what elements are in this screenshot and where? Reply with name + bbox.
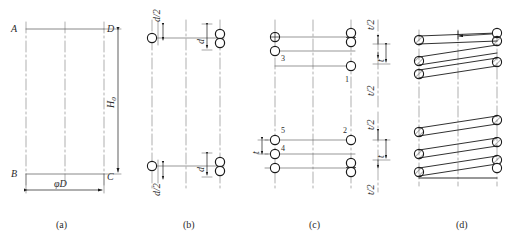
panel-c-circle-bottom-left: [270, 163, 279, 172]
panel-c-number-5: 5: [281, 126, 285, 135]
panel-b-circle-left-bottom: [147, 161, 156, 170]
panel-c-circle-top-left: [270, 32, 279, 41]
panel-c-centerlines: [275, 20, 378, 192]
panel-c-circle-1: [346, 61, 355, 70]
panel-b-rails: [152, 38, 224, 166]
panel-c-circle-right-top-pair: [346, 28, 355, 46]
dimension-c-t-upper-label: t: [375, 59, 386, 62]
dimension-h0-label: H0: [105, 97, 118, 109]
panel-d-centerlines: [419, 30, 497, 186]
panel-d-section-lower-left-2: [414, 149, 423, 158]
dimension-b-d-top-label: d: [195, 38, 206, 44]
dimension-b-d2-bottom-label: d/2: [151, 183, 162, 196]
panel-d-section-upper-left-3: [414, 69, 423, 78]
spring-construction-figure: A D B C H0 φD (a): [0, 0, 520, 242]
panel-d-section-lower-left-1: [414, 127, 423, 136]
dimension-c-t2-upper-top-label: t/2: [365, 19, 376, 30]
panel-b-centerlines: [152, 20, 220, 188]
panel-d-upper-arrow: [458, 31, 492, 39]
corner-label-b: B: [11, 168, 17, 179]
dimension-b-d-bottom-label: d: [195, 166, 206, 172]
dimension-b-d-top: [202, 24, 212, 50]
panel-a: A D B C H0 φD (a): [10, 22, 121, 231]
dimension-b-d2-bottom: [158, 160, 163, 183]
corner-label-c: C: [107, 171, 114, 182]
dimension-c-t-lower-label: t: [375, 155, 386, 158]
panel-d-section-upper-right-2: [492, 57, 501, 66]
panel-c-number-1: 1: [345, 75, 349, 84]
panel-b-circle-right-bottom: [215, 157, 224, 175]
panel-d-section-lower-right-3: [492, 155, 501, 172]
panel-c-circle-2: [346, 135, 355, 144]
panel-c-rails: [265, 37, 355, 168]
corner-label-d: D: [106, 23, 115, 34]
dimension-b-d2-top: [158, 22, 163, 45]
panel-b: d/2 d d/2 d (b): [147, 9, 224, 231]
panel-c-number-4: 4: [281, 144, 285, 153]
panel-b-caption: (b): [183, 219, 195, 231]
dimension-c-t2-lower-bottom-label: t/2: [365, 184, 376, 195]
panel-a-caption: (a): [56, 219, 67, 231]
corner-label-a: A: [10, 23, 18, 34]
dimension-phid-label: φD: [54, 178, 68, 189]
panel-d-section-upper-left-1: [414, 35, 423, 44]
dimension-c-t2-upper-bottom-label: t/2: [365, 85, 376, 96]
panel-c-circle-right-bottom-pair: [346, 158, 355, 176]
panel-c: 3 5 4 1 2: [250, 19, 390, 231]
panel-d-section-upper-right-1: [492, 28, 501, 45]
panel-d-section-upper-left-2: [414, 56, 423, 65]
panel-c-circle-5: [270, 135, 279, 144]
panel-c-number-3: 3: [281, 54, 285, 63]
panel-d-section-lower-left-3: [414, 167, 423, 176]
panel-a-centerlines: [26, 22, 104, 186]
panel-d-section-lower-right-2: [492, 137, 501, 146]
dimension-c-t-lower-left-label: t: [250, 151, 261, 154]
panel-b-circle-right-top: [215, 29, 224, 47]
dimension-c-lower-right: [373, 132, 390, 168]
panel-d: (d): [414, 28, 501, 231]
dimension-b-d2-top-label: d/2: [151, 9, 162, 22]
panel-c-caption: (c): [309, 219, 320, 231]
panel-d-section-lower-right-1: [492, 115, 501, 124]
panel-c-circle-4: [270, 149, 279, 158]
dimension-b-d-bottom: [202, 153, 212, 177]
panel-c-number-2: 2: [343, 126, 347, 135]
panel-c-circle-3: [270, 46, 279, 55]
panel-d-caption: (d): [456, 219, 468, 231]
dimension-c-t2-lower-top-label: t/2: [365, 119, 376, 130]
panel-b-circle-left-top: [147, 33, 156, 42]
